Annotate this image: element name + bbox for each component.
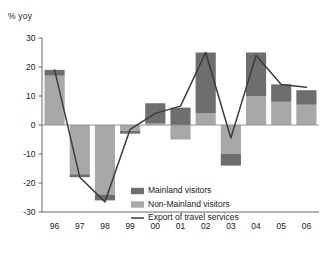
- y-axis-tick-label: 20: [26, 62, 36, 72]
- x-axis-tick-label: 98: [100, 221, 110, 231]
- y-axis-tick-label: -20: [23, 178, 36, 188]
- x-axis-tick-label: 03: [226, 221, 236, 231]
- x-axis-tick-label: 00: [151, 221, 161, 231]
- y-axis-tick-label: -30: [23, 207, 36, 217]
- bar-mainland: [221, 154, 241, 166]
- bar-non-mainland: [95, 125, 115, 195]
- x-axis-tick-label: 04: [251, 221, 261, 231]
- legend-swatch: [131, 188, 144, 194]
- y-axis-tick-label: 30: [26, 33, 36, 43]
- bar-non-mainland: [196, 113, 216, 125]
- x-axis-tick-label: 96: [50, 221, 60, 231]
- x-axis-tick-label: 05: [276, 221, 286, 231]
- bar-mainland: [296, 90, 316, 105]
- bar-non-mainland: [296, 105, 316, 125]
- chart-container: % yoy 3020100-10-20-30 96979899000102030…: [0, 0, 331, 260]
- bar-mainland: [170, 108, 190, 125]
- legend-label: Non-Mainland visitors: [148, 199, 230, 209]
- legend-label: Mainland visitors: [148, 185, 211, 195]
- y-axis-tick-label: 0: [31, 120, 36, 130]
- bar-mainland: [196, 53, 216, 114]
- bar-non-mainland: [271, 102, 291, 125]
- chart-plot-area: 3020100-10-20-30 9697989900010203040506 …: [0, 0, 331, 260]
- x-axis-tick-label: 99: [125, 221, 135, 231]
- bar-non-mainland: [221, 125, 241, 154]
- legend-swatch: [131, 201, 144, 207]
- chart-legend: Mainland visitorsNon-Mainland visitorsEx…: [131, 185, 239, 222]
- y-axis: 3020100-10-20-30: [23, 33, 42, 217]
- bar-non-mainland: [246, 96, 266, 125]
- x-axis-tick-label: 06: [302, 221, 312, 231]
- y-axis-tick-label: 10: [26, 91, 36, 101]
- x-axis-tick-label: 02: [201, 221, 211, 231]
- bar-mainland: [246, 53, 266, 97]
- bar-non-mainland: [170, 125, 190, 140]
- bar-series-group: [45, 53, 317, 201]
- x-axis-tick-label: 01: [176, 221, 186, 231]
- legend-label: Export of travel services: [148, 212, 239, 222]
- bar-mainland: [271, 84, 291, 101]
- y-axis-tick-label: -10: [23, 149, 36, 159]
- x-axis-tick-label: 97: [75, 221, 85, 231]
